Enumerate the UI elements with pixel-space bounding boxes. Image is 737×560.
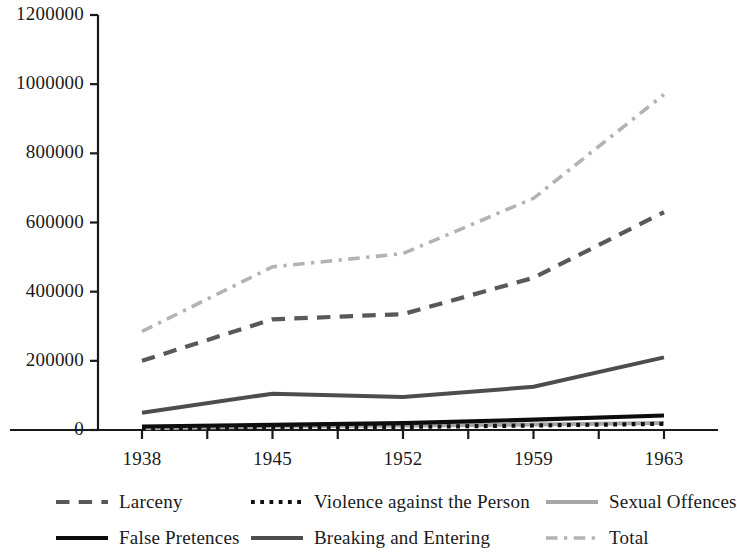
legend-label: Sexual Offences <box>609 491 737 513</box>
y-axis-tick-label: 400000 <box>26 280 84 302</box>
legend-swatch-dashed-icon <box>55 495 109 509</box>
x-axis-tick-label: 1952 <box>343 448 463 470</box>
legend-swatch-solid-icon <box>250 531 304 545</box>
x-axis-tick-label: 1963 <box>604 448 724 470</box>
series-line-larceny <box>142 212 664 361</box>
legend-item-false-pretences[interactable]: False Pretences <box>55 527 240 549</box>
y-axis-tick-label: 1200000 <box>16 3 84 25</box>
y-axis-tick-label: 800000 <box>26 141 84 163</box>
legend-item-violence-against-the-person[interactable]: Violence against the Person <box>250 491 530 513</box>
legend-item-sexual-offences[interactable]: Sexual Offences <box>545 491 737 513</box>
series-line-breaking-and-entering <box>142 357 664 412</box>
axis-layer <box>10 15 718 439</box>
x-axis-tick-label: 1945 <box>213 448 333 470</box>
plot-area <box>0 0 729 487</box>
legend-item-breaking-and-entering[interactable]: Breaking and Entering <box>250 527 490 549</box>
y-axis-tick-label: 1000000 <box>16 72 84 94</box>
legend-swatch-solid-icon <box>545 495 599 509</box>
legend-swatch-dotted-icon <box>250 495 304 509</box>
y-axis-tick-label: 200000 <box>26 349 84 371</box>
legend-label: False Pretences <box>119 527 240 549</box>
legend-label: Total <box>609 527 649 549</box>
legend-label: Breaking and Entering <box>314 527 490 549</box>
y-axis-tick-label: 600000 <box>26 211 84 233</box>
x-axis-tick-label: 1938 <box>82 448 202 470</box>
legend-item-total[interactable]: Total <box>545 527 649 549</box>
series-layer <box>142 95 664 430</box>
chart-legend: LarcenyViolence against the PersonSexual… <box>0 487 729 560</box>
x-axis-tick-label: 1959 <box>474 448 594 470</box>
y-axis-tick-label: 0 <box>74 418 84 440</box>
legend-item-larceny[interactable]: Larceny <box>55 491 183 513</box>
legend-label: Larceny <box>119 491 183 513</box>
series-line-total <box>142 95 664 332</box>
legend-swatch-dash-dot-icon <box>545 531 599 545</box>
legend-label: Violence against the Person <box>314 491 530 513</box>
legend-swatch-solid-icon <box>55 531 109 545</box>
